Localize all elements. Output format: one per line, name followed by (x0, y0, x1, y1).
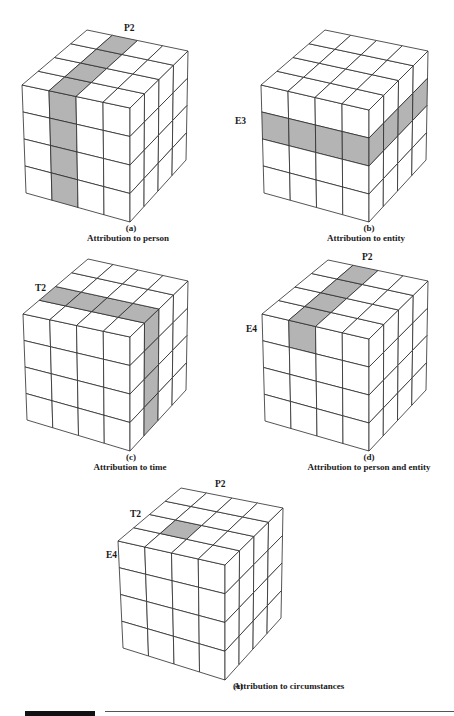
axis-label: E4 (246, 325, 257, 335)
footer-rule-thick (25, 711, 95, 716)
panel-letter: (c) (126, 453, 136, 462)
axis-label: E4 (106, 551, 117, 561)
panel-caption: Attribution to time (94, 463, 167, 472)
footer-rule-thin (105, 711, 454, 712)
axis-label: P2 (215, 480, 226, 490)
cubes-canvas (0, 0, 454, 716)
axis-label: T2 (35, 284, 46, 294)
panel-caption: Attribution to entity (327, 234, 405, 243)
attribution-cubes-figure: P2 (a) Attribution to person E3 (b) Attr… (0, 0, 454, 716)
axis-label: E3 (235, 117, 246, 127)
panel-caption: Attribution to person and entity (307, 463, 430, 472)
panel-letter: (a) (126, 224, 137, 233)
panel-caption: Attribution to circumstances (234, 682, 344, 691)
panel-letter: (b) (364, 224, 375, 233)
axis-label: T2 (130, 510, 141, 520)
axis-label: P2 (124, 24, 135, 34)
panel-letter: (d) (364, 453, 375, 462)
panel-caption: Attribution to person (87, 234, 169, 243)
axis-label: P2 (362, 253, 373, 263)
